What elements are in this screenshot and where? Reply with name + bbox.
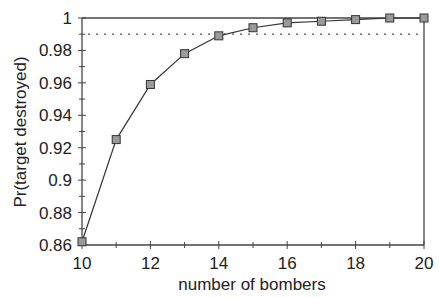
y-tick-label: 0.94 [39, 106, 72, 125]
x-tick-label: 14 [209, 254, 228, 273]
data-point-marker [112, 136, 120, 144]
data-point-marker [181, 50, 189, 58]
y-tick-label: 0.88 [39, 204, 72, 223]
data-point-marker [283, 19, 291, 27]
y-axis-title: Pr(target destroyed) [11, 56, 30, 207]
y-tick-label: 0.92 [39, 139, 72, 158]
data-point-marker [78, 238, 86, 246]
x-tick-label: 18 [346, 254, 365, 273]
y-axis-ticks: 0.860.880.90.920.940.960.981 [39, 9, 86, 255]
y-tick-label: 0.9 [48, 171, 72, 190]
data-point-marker [386, 14, 394, 22]
y-tick-label: 0.96 [39, 74, 72, 93]
x-tick-label: 16 [278, 254, 297, 273]
data-point-marker [146, 80, 154, 88]
y-tick-label: 0.86 [39, 236, 72, 255]
x-axis-ticks: 101214161820 [73, 241, 434, 273]
probability-chart: 0.860.880.90.920.940.960.981 10121416182… [0, 0, 439, 298]
data-point-marker [317, 17, 325, 25]
data-point-marker [215, 32, 223, 40]
data-point-marker [352, 16, 360, 24]
x-tick-label: 20 [415, 254, 434, 273]
y-tick-label: 0.98 [39, 41, 72, 60]
plot-frame [82, 18, 424, 245]
data-point-marker [249, 24, 257, 32]
data-series [78, 14, 428, 246]
x-axis-title: number of bombers [178, 275, 325, 294]
x-tick-label: 10 [73, 254, 92, 273]
data-point-marker [420, 14, 428, 22]
y-tick-label: 1 [63, 9, 72, 28]
x-tick-label: 12 [141, 254, 160, 273]
